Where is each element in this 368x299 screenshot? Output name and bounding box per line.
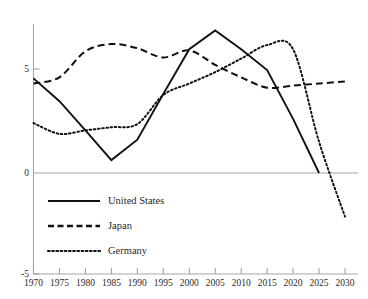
x-tick-label-2020: 2020 [284,278,303,288]
x-tick-label-2000: 2000 [180,278,199,288]
x-axis-ticks [34,268,346,274]
x-axis-tick-labels: 1970197519801985199019952000200520102015… [24,278,355,288]
legend-label-united-states: United States [108,195,164,206]
chart-plot-area: 1970197519801985199019952000200520102015… [0,0,368,299]
x-tick-label-1980: 1980 [76,278,95,288]
y-tick-label-0: 0 [24,168,29,178]
legend-label-japan: Japan [108,220,133,231]
x-tick-label-1990: 1990 [128,278,147,288]
chart-legend: United StatesJapanGermany [48,195,164,256]
axis-group [34,24,359,274]
x-tick-label-2030: 2030 [336,278,355,288]
x-tick-label-1975: 1975 [50,278,69,288]
x-tick-label-2005: 2005 [206,278,225,288]
line-chart: 1970197519801985199019952000200520102015… [0,0,368,299]
legend-label-germany: Germany [108,245,148,256]
y-tick-label--5: -5 [21,269,29,279]
x-tick-label-2010: 2010 [232,278,251,288]
y-tick-label-5: 5 [24,64,29,74]
y-axis-ticks [34,69,40,274]
x-tick-label-1995: 1995 [154,278,173,288]
x-tick-label-1985: 1985 [102,278,121,288]
y-axis-tick-labels: 50-5 [21,64,29,279]
x-tick-label-2015: 2015 [258,278,277,288]
x-tick-label-2025: 2025 [310,278,329,288]
data-series-group [34,31,346,217]
series-line-united-states [34,31,320,173]
